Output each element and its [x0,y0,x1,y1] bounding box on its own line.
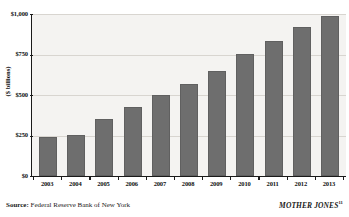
x-axis-tick-mark [61,176,62,180]
bar-slot [119,14,147,176]
bar-slot [203,14,231,176]
bar-2005 [95,119,113,176]
x-axis-tick-labels: 2003200420052006200720082009201020112012… [31,180,345,187]
chart-figure: $0$250$500$750$1,000 ($ billions) 200320… [0,0,349,217]
x-axis-tick-mark [89,176,90,180]
x-axis-tick-mark [315,176,316,180]
bar-2012 [293,27,311,176]
x-axis-tick-label: 2009 [202,180,230,187]
y-axis-tick-mark [30,55,34,56]
source-value: Federal Reserve Bank of New York [29,201,130,209]
x-axis-tick-mark [118,176,119,180]
x-axis-tick-label: 2005 [89,180,117,187]
x-axis-tick-label: 2003 [33,180,61,187]
y-axis-tick-label: $250 [2,132,28,139]
bar-2007 [152,95,170,176]
bar-slot [316,14,344,176]
bar-2006 [124,107,142,176]
bar-2013 [321,16,339,176]
source-label: Source: [6,201,29,209]
x-axis-tick-label: 2008 [174,180,202,187]
bar-2009 [208,71,226,176]
publisher-brand: MOTHER JONES11 [279,200,343,210]
x-axis-tick-label: 2013 [315,180,343,187]
y-axis-tick-mark [30,136,34,137]
bar-slot [288,14,316,176]
bar-2003 [39,137,57,176]
bar-2004 [67,135,85,176]
bar-slot [90,14,118,176]
x-axis-tick-label: 2012 [287,180,315,187]
y-axis-tick-mark [30,176,34,177]
x-axis-tick-label: 2011 [259,180,287,187]
x-axis-tick-label: 2006 [118,180,146,187]
y-axis-tick-label: $0 [2,173,28,180]
y-axis-tick-label: $1,000 [2,11,28,18]
bar-slot [34,14,62,176]
bar-slot [175,14,203,176]
bar-2010 [236,54,254,176]
x-axis-tick-mark [258,176,259,180]
bar-2011 [265,41,283,176]
x-axis-tick-mark [230,176,231,180]
y-axis-title: ($ billions) [4,47,11,117]
y-axis-tick-mark [30,95,34,96]
x-axis-tick-mark [287,176,288,180]
source-citation: Source: Federal Reserve Bank of New York [6,201,130,209]
chart-footer: Source: Federal Reserve Bank of New York… [0,198,349,212]
x-axis-tick-mark [343,176,344,180]
bar-2008 [180,84,198,176]
x-axis-tick-label: 2010 [230,180,258,187]
brand-name: MOTHER JONES [279,201,338,210]
y-axis-tick-mark [30,14,34,15]
brand-footnote: 11 [338,200,343,205]
x-axis-tick-mark [174,176,175,180]
x-axis-tick-mark [202,176,203,180]
bar-slot [62,14,90,176]
plot-area [31,14,346,177]
bar-slot [147,14,175,176]
x-axis-tick-label: 2004 [61,180,89,187]
x-axis-tick-mark [33,176,34,180]
bar-slot [231,14,259,176]
x-axis-tick-label: 2007 [146,180,174,187]
x-axis-tick-mark [146,176,147,180]
bar-slot [260,14,288,176]
bar-series [32,14,346,176]
